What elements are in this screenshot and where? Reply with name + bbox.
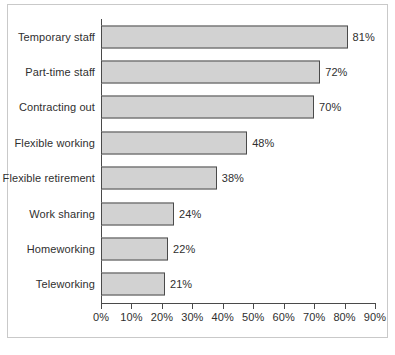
x-axis-tick-label: 30% bbox=[181, 311, 203, 323]
bar-row: Flexible retirement38% bbox=[101, 161, 375, 196]
x-axis-tick-label: 40% bbox=[212, 311, 234, 323]
x-axis-tick-label: 0% bbox=[93, 311, 109, 323]
x-axis-tick bbox=[284, 304, 285, 309]
bar-row: Work sharing24% bbox=[101, 196, 375, 231]
x-axis-tick bbox=[375, 304, 376, 309]
bar-row: Homeworking22% bbox=[101, 231, 375, 266]
bar-category-label: Homeworking bbox=[27, 243, 95, 255]
bar-category-label: Temporary staff bbox=[18, 31, 95, 43]
x-axis-tick bbox=[223, 304, 224, 309]
bar bbox=[101, 131, 247, 154]
x-axis-tick-label: 50% bbox=[242, 311, 264, 323]
bar-row: Part-time staff72% bbox=[101, 54, 375, 89]
bar-value-label: 24% bbox=[179, 208, 201, 220]
x-axis-tick bbox=[192, 304, 193, 309]
bar-category-label: Contracting out bbox=[19, 101, 95, 113]
x-axis-tick-label: 70% bbox=[303, 311, 325, 323]
x-axis-tick-label: 10% bbox=[120, 311, 142, 323]
bar-value-label: 38% bbox=[222, 172, 244, 184]
bar-category-label: Flexible working bbox=[15, 137, 95, 149]
x-axis-tick bbox=[345, 304, 346, 309]
bar bbox=[101, 237, 168, 260]
x-axis-tick-label: 80% bbox=[333, 311, 355, 323]
bar bbox=[101, 202, 174, 225]
x-axis-tick bbox=[162, 304, 163, 309]
bar-category-label: Flexible retirement bbox=[3, 172, 95, 184]
bar bbox=[101, 96, 314, 119]
bar-row: Temporary staff81% bbox=[101, 19, 375, 54]
bar-category-label: Work sharing bbox=[29, 208, 95, 220]
plot-area: Temporary staff81%Part-time staff72%Cont… bbox=[101, 19, 375, 302]
x-axis-tick bbox=[131, 304, 132, 309]
bar-value-label: 72% bbox=[325, 66, 347, 78]
x-axis-tick-label: 20% bbox=[151, 311, 173, 323]
x-axis-tick-label: 60% bbox=[272, 311, 294, 323]
bar bbox=[101, 61, 320, 84]
x-axis-tick bbox=[101, 304, 102, 309]
bar-value-label: 81% bbox=[353, 31, 375, 43]
figure: Temporary staff81%Part-time staff72%Cont… bbox=[0, 0, 395, 355]
bar bbox=[101, 273, 165, 296]
x-axis-tick-label: 90% bbox=[364, 311, 386, 323]
x-axis-tick bbox=[253, 304, 254, 309]
x-axis: 0%10%20%30%40%50%60%70%80%90% bbox=[101, 304, 375, 334]
bar-row: Teleworking21% bbox=[101, 267, 375, 302]
bar-row: Contracting out70% bbox=[101, 90, 375, 125]
bar-category-label: Teleworking bbox=[36, 278, 95, 290]
bar bbox=[101, 167, 217, 190]
bar-value-label: 21% bbox=[170, 278, 192, 290]
bar-row: Flexible working48% bbox=[101, 125, 375, 160]
x-axis-tick bbox=[314, 304, 315, 309]
bar-category-label: Part-time staff bbox=[25, 66, 95, 78]
bar-value-label: 70% bbox=[319, 101, 341, 113]
bar-value-label: 48% bbox=[252, 137, 274, 149]
bar-value-label: 22% bbox=[173, 243, 195, 255]
bar bbox=[101, 25, 348, 48]
